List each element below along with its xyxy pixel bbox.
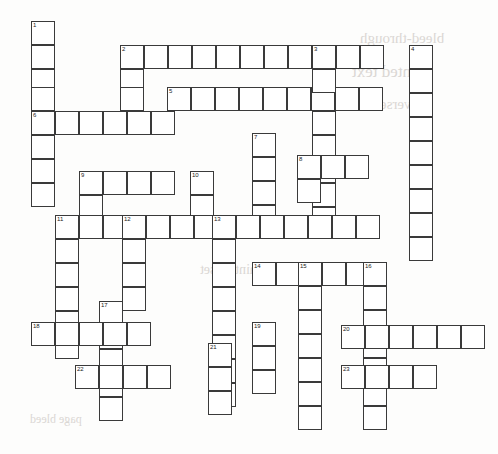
crossword-cell[interactable]: [332, 215, 356, 239]
crossword-cell-12[interactable]: 12: [122, 215, 146, 239]
crossword-cell[interactable]: [168, 45, 192, 69]
crossword-cell[interactable]: [287, 87, 311, 111]
crossword-cell[interactable]: [79, 322, 103, 346]
crossword-cell-20[interactable]: 20: [341, 325, 365, 349]
crossword-cell-8[interactable]: 8: [297, 155, 321, 179]
crossword-cell[interactable]: [308, 215, 332, 239]
crossword-cell[interactable]: [146, 215, 170, 239]
crossword-cell[interactable]: [151, 111, 175, 135]
crossword-cell[interactable]: [298, 286, 322, 310]
crossword-cell[interactable]: [252, 370, 276, 394]
crossword-cell[interactable]: [55, 322, 79, 346]
crossword-cell[interactable]: [365, 365, 389, 389]
crossword-cell-10[interactable]: 10: [190, 171, 214, 195]
crossword-cell[interactable]: [31, 87, 55, 111]
crossword-cell-18[interactable]: 18: [31, 322, 55, 346]
crossword-cell[interactable]: [208, 367, 232, 391]
crossword-cell[interactable]: [31, 183, 55, 207]
crossword-cell[interactable]: [335, 87, 359, 111]
crossword-cell[interactable]: [79, 111, 103, 135]
crossword-cell-9[interactable]: 9: [79, 171, 103, 195]
crossword-cell[interactable]: [240, 45, 264, 69]
crossword-grid[interactable]: 1623547891011121314151617181920212223: [0, 0, 498, 454]
crossword-cell[interactable]: [252, 346, 276, 370]
crossword-cell[interactable]: [127, 322, 151, 346]
crossword-cell-21[interactable]: 21: [208, 343, 232, 367]
crossword-cell[interactable]: [55, 239, 79, 263]
crossword-cell[interactable]: [298, 334, 322, 358]
crossword-cell[interactable]: [322, 262, 346, 286]
crossword-cell[interactable]: [55, 111, 79, 135]
crossword-cell[interactable]: [298, 310, 322, 334]
crossword-cell[interactable]: [212, 287, 236, 311]
crossword-cell[interactable]: [239, 87, 263, 111]
crossword-cell[interactable]: [312, 111, 336, 135]
crossword-cell-5[interactable]: 5: [167, 87, 191, 111]
crossword-cell-13[interactable]: 13: [212, 215, 236, 239]
crossword-cell-7[interactable]: 7: [252, 133, 276, 157]
crossword-cell-23[interactable]: 23: [341, 365, 365, 389]
crossword-cell[interactable]: [147, 365, 171, 389]
crossword-cell[interactable]: [99, 365, 123, 389]
crossword-cell[interactable]: [409, 117, 433, 141]
crossword-cell[interactable]: [127, 171, 151, 195]
crossword-cell[interactable]: [409, 93, 433, 117]
crossword-cell[interactable]: [409, 141, 433, 165]
crossword-cell[interactable]: [345, 155, 369, 179]
crossword-cell-14[interactable]: 14: [252, 262, 276, 286]
crossword-cell[interactable]: [216, 45, 240, 69]
crossword-cell[interactable]: [359, 87, 383, 111]
crossword-cell[interactable]: [363, 286, 387, 310]
crossword-cell-19[interactable]: 19: [252, 322, 276, 346]
crossword-cell-4[interactable]: 4: [409, 45, 433, 69]
crossword-cell-22[interactable]: 22: [75, 365, 99, 389]
crossword-cell[interactable]: [122, 287, 146, 311]
crossword-cell[interactable]: [365, 325, 389, 349]
crossword-cell[interactable]: [31, 45, 55, 69]
crossword-cell[interactable]: [409, 189, 433, 213]
crossword-cell[interactable]: [276, 262, 300, 286]
crossword-cell[interactable]: [103, 171, 127, 195]
crossword-cell[interactable]: [409, 213, 433, 237]
crossword-cell[interactable]: [312, 69, 336, 93]
crossword-cell[interactable]: [103, 322, 127, 346]
crossword-cell[interactable]: [409, 237, 433, 261]
crossword-cell[interactable]: [192, 45, 216, 69]
crossword-cell-11[interactable]: 11: [55, 215, 79, 239]
crossword-cell[interactable]: [336, 45, 360, 69]
crossword-cell[interactable]: [437, 325, 461, 349]
crossword-cell[interactable]: [122, 263, 146, 287]
crossword-cell[interactable]: [389, 325, 413, 349]
crossword-cell[interactable]: [360, 45, 384, 69]
crossword-cell[interactable]: [215, 87, 239, 111]
crossword-cell[interactable]: [413, 365, 437, 389]
crossword-cell[interactable]: [389, 365, 413, 389]
crossword-cell[interactable]: [298, 382, 322, 406]
crossword-cell[interactable]: [298, 406, 322, 430]
crossword-cell[interactable]: [413, 325, 437, 349]
crossword-cell[interactable]: [123, 365, 147, 389]
crossword-cell[interactable]: [151, 171, 175, 195]
crossword-cell-1[interactable]: 1: [31, 21, 55, 45]
crossword-cell[interactable]: [260, 215, 284, 239]
crossword-cell[interactable]: [144, 45, 168, 69]
crossword-cell[interactable]: [103, 111, 127, 135]
crossword-cell[interactable]: [264, 45, 288, 69]
crossword-cell[interactable]: [363, 406, 387, 430]
crossword-cell[interactable]: [127, 111, 151, 135]
crossword-cell[interactable]: [170, 215, 194, 239]
crossword-cell[interactable]: [31, 159, 55, 183]
crossword-cell[interactable]: [120, 87, 144, 111]
crossword-cell[interactable]: [284, 215, 308, 239]
crossword-cell[interactable]: [31, 135, 55, 159]
crossword-cell[interactable]: [321, 155, 345, 179]
crossword-cell[interactable]: [297, 179, 321, 203]
crossword-cell[interactable]: [79, 215, 103, 239]
crossword-cell[interactable]: [212, 311, 236, 335]
crossword-cell[interactable]: [409, 165, 433, 189]
crossword-cell[interactable]: [212, 239, 236, 263]
crossword-cell[interactable]: [461, 325, 485, 349]
crossword-cell-6[interactable]: 6: [31, 111, 55, 135]
crossword-cell[interactable]: [263, 87, 287, 111]
crossword-cell-15[interactable]: 15: [298, 262, 322, 286]
